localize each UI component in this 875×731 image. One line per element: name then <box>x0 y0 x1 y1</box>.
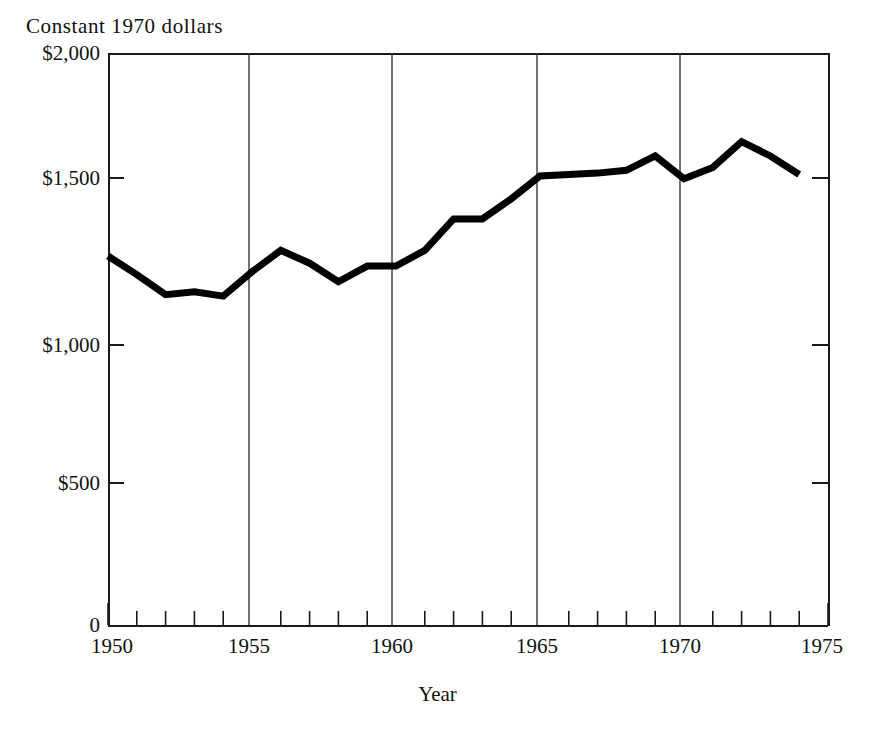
data-series-line <box>108 142 799 296</box>
x-tick-label-1970: 1970 <box>659 636 701 657</box>
x-tick-label-1960: 1960 <box>371 636 413 657</box>
plot-canvas <box>0 0 875 731</box>
y-tick-mark-right-group <box>812 178 828 483</box>
x-tick-label-1975: 1975 <box>801 636 843 657</box>
x-axis-title: Year <box>0 684 875 705</box>
x-tick-label-1950: 1950 <box>91 636 133 657</box>
x-tick-label-group: 1950 1955 1960 1965 1970 1975 <box>0 636 875 676</box>
line-chart-figure: Constant 1970 dollars $2,000 $1,500 $1,0… <box>0 0 875 731</box>
x-tick-label-1965: 1965 <box>516 636 558 657</box>
y-tick-mark-group <box>108 178 124 483</box>
x-tick-label-1955: 1955 <box>228 636 270 657</box>
gridline-group <box>249 53 680 625</box>
x-minor-tick-group <box>108 603 828 625</box>
